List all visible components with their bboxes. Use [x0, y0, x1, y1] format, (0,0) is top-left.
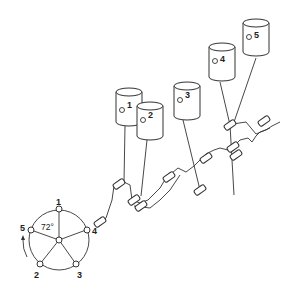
cylinder-3: 3	[174, 82, 200, 120]
cylinder-4-label: 4	[220, 54, 225, 64]
pipe-route	[96, 122, 280, 226]
arrow-head-icon	[21, 235, 25, 240]
angle-label: 72°	[41, 222, 54, 232]
couplings	[93, 115, 270, 228]
rotation-arrow-icon	[23, 240, 27, 257]
wheel-node-1: 1	[56, 197, 61, 207]
cylinder-1-label: 1	[127, 100, 132, 110]
wheel-node-2: 2	[34, 270, 39, 280]
wheel-node-3: 3	[77, 270, 82, 280]
cylinder-4: 4	[209, 43, 235, 81]
cylinder-5: 5	[243, 19, 269, 56]
wheel-node-5: 5	[20, 223, 25, 233]
cylinder-5-label: 5	[254, 30, 259, 40]
cylinder-3-label: 3	[185, 90, 190, 100]
cylinder-2: 2	[137, 102, 163, 140]
diagram-canvas: 1 2 3 4 5 1 4 3	[0, 0, 298, 291]
wheel-node-4: 4	[92, 226, 97, 236]
firing-order-wheel: 1 4 3 2 5 72°	[20, 197, 97, 280]
cylinder-2-label: 2	[148, 110, 153, 120]
